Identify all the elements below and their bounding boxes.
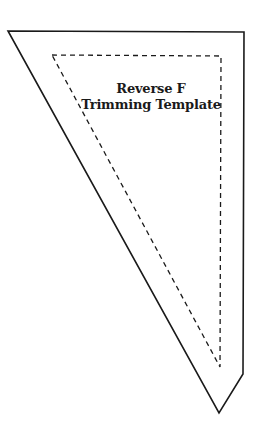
template-title: Reverse F Trimming Template (81, 81, 221, 113)
title-line-2: Trimming Template (81, 97, 221, 113)
title-line-1: Reverse F (81, 81, 221, 97)
trimming-template-diagram (0, 0, 258, 435)
